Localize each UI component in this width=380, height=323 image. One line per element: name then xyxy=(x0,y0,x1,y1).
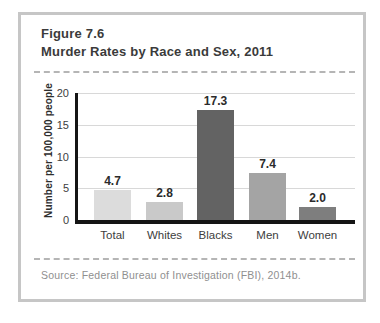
x-tick-label: Whites xyxy=(147,229,182,241)
y-tick-label: 15 xyxy=(39,119,69,131)
bottom-dashed-divider xyxy=(34,258,355,260)
x-tick-label: Total xyxy=(100,229,124,241)
x-tick-label: Men xyxy=(256,229,278,241)
bar-value-label: 2.8 xyxy=(156,186,173,200)
x-axis-line xyxy=(75,220,355,224)
bar-whites xyxy=(146,202,183,220)
figure-card: Figure 7.6 Murder Rates by Race and Sex,… xyxy=(18,12,366,302)
bar-value-label: 17.3 xyxy=(204,94,227,108)
x-tick-label: Blacks xyxy=(199,229,233,241)
source-note: Source: Federal Bureau of Investigation … xyxy=(41,269,301,281)
bar-chart: Number per 100,000 people 051015204.7Tot… xyxy=(21,15,363,299)
y-tick-label: 0 xyxy=(39,214,69,226)
y-tick-label: 20 xyxy=(39,87,69,99)
y-axis-line xyxy=(75,93,78,224)
bar-value-label: 2.0 xyxy=(309,191,326,205)
bar-blacks xyxy=(197,110,234,220)
y-tick-label: 5 xyxy=(39,182,69,194)
bar-women xyxy=(299,207,336,220)
x-tick-label: Women xyxy=(298,229,337,241)
bar-total xyxy=(94,190,131,220)
y-tick-label: 10 xyxy=(39,151,69,163)
bar-value-label: 4.7 xyxy=(104,174,121,188)
bar-value-label: 7.4 xyxy=(259,157,276,171)
bar-men xyxy=(249,173,286,220)
